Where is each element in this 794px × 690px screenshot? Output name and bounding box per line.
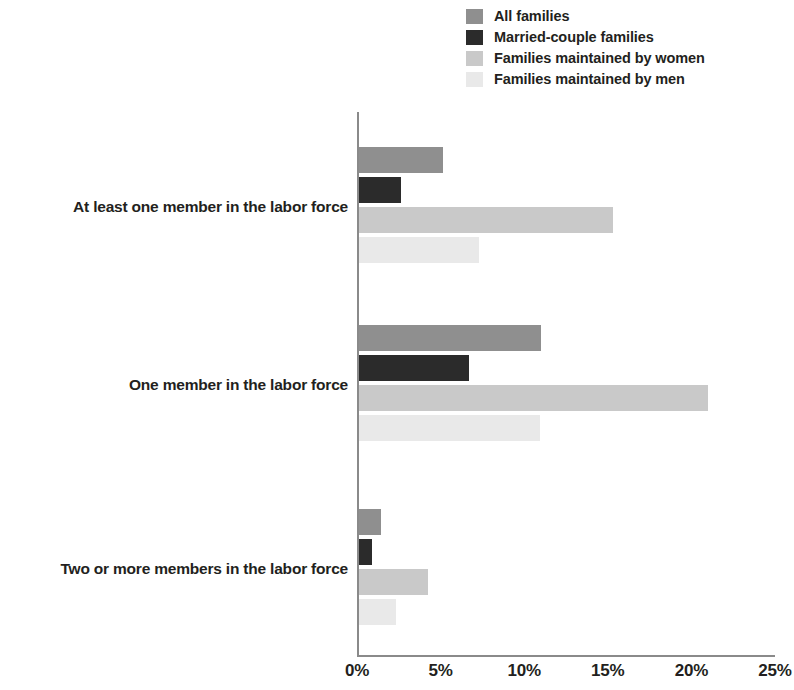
bar[interactable] [359,325,541,351]
legend-item[interactable]: Married-couple families [466,27,786,48]
bar-group [359,509,777,629]
legend-label: Families maintained by women [494,51,705,66]
bar[interactable] [359,237,479,263]
legend-swatch-icon [466,72,483,87]
bar[interactable] [359,147,443,173]
bar[interactable] [359,355,469,381]
bar[interactable] [359,569,428,595]
category-label: Two or more members in the labor force [0,561,348,577]
legend-swatch-icon [466,51,483,66]
legend-swatch-icon [466,30,483,45]
x-tick-label: 0% [345,662,369,679]
bar[interactable] [359,385,708,411]
chart-legend: All familiesMarried-couple familiesFamil… [466,6,786,90]
x-tick-label: 5% [429,662,453,679]
x-tick-label: 20% [675,662,708,679]
bar[interactable] [359,415,540,441]
bar[interactable] [359,207,613,233]
legend-item[interactable]: Families maintained by women [466,48,786,69]
x-tick-label: 25% [758,662,791,679]
legend-swatch-icon [466,9,483,24]
legend-label: Families maintained by men [494,72,685,87]
bar[interactable] [359,177,401,203]
bar-group [359,147,777,267]
category-label: At least one member in the labor force [0,199,348,215]
category-label: One member in the labor force [0,377,348,393]
x-tick-label: 15% [591,662,624,679]
bar[interactable] [359,509,381,535]
legend-label: Married-couple families [494,30,654,45]
legend-label: All families [494,9,569,24]
x-tick-label: 10% [507,662,540,679]
legend-item[interactable]: Families maintained by men [466,69,786,90]
bar[interactable] [359,539,372,565]
bar[interactable] [359,599,396,625]
x-axis-line [357,655,775,657]
legend-item[interactable]: All families [466,6,786,27]
bar-chart: All familiesMarried-couple familiesFamil… [0,0,794,690]
bar-group [359,325,777,445]
plot-area [357,112,775,657]
